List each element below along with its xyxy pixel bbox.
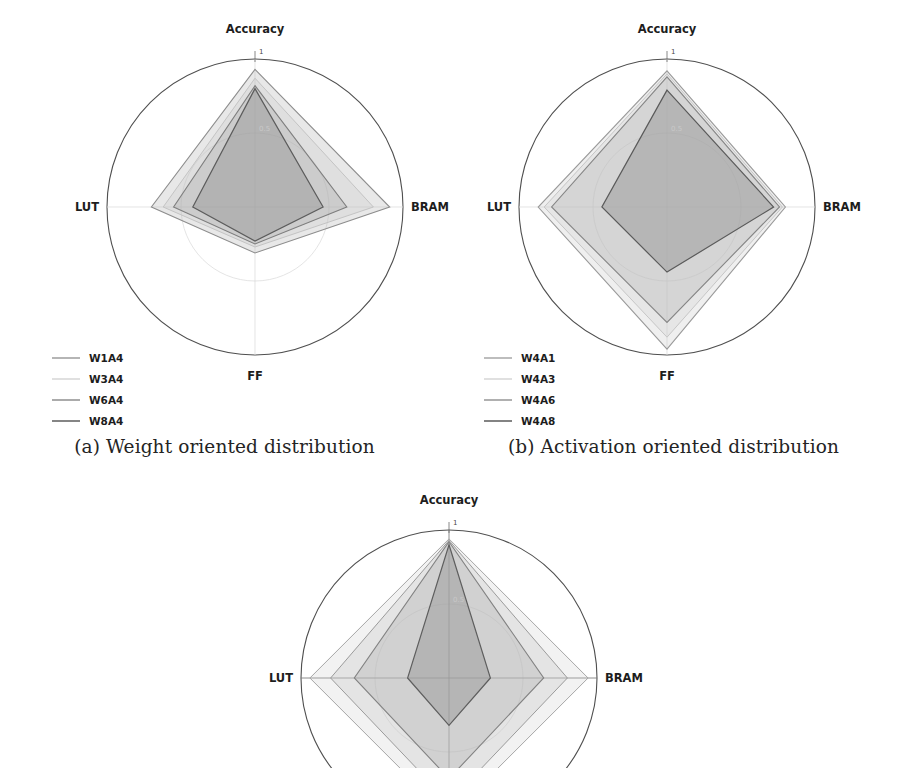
axis-label-accuracy: Accuracy — [638, 22, 697, 36]
legend-a: W1A4 W3A4 W6A4 W8A4 — [52, 352, 123, 427]
legend-label-4[interactable]: W4A8 — [521, 415, 555, 427]
axis-label-bram: BRAM — [411, 200, 449, 214]
axis-label-lut: LUT — [269, 671, 293, 685]
axis-label-bram: BRAM — [823, 200, 861, 214]
legend-label-3[interactable]: W6A4 — [89, 394, 123, 406]
radar-panel-a: Accuracy BRAM FF LUT 1 0.5 W1A4 W3A4 W6A… — [0, 0, 449, 430]
radial-tick-outer: 1 — [453, 519, 457, 527]
radar-chart-b: Accuracy BRAM FF LUT 1 0.5 W4A1 W4A3 W4A… — [449, 0, 898, 430]
radial-tick-mid: 0.5 — [259, 125, 270, 133]
axis-label-bram: BRAM — [605, 671, 643, 685]
radar-panel-b: Accuracy BRAM FF LUT 1 0.5 W4A1 W4A3 W4A… — [449, 0, 898, 430]
caption-b: (b) Activation oriented distribution — [449, 436, 898, 457]
caption-a: (a) Weight oriented distribution — [0, 436, 449, 457]
axis-label-ff: FF — [247, 369, 263, 383]
legend-label-4[interactable]: W8A4 — [89, 415, 123, 427]
axis-label-lut: LUT — [75, 200, 99, 214]
radar-panel-c: Accuracy BRAM LUT 1 0.5 — [225, 478, 674, 768]
axis-label-lut: LUT — [487, 200, 511, 214]
legend-label-3[interactable]: W4A6 — [521, 394, 555, 406]
radial-tick-outer: 1 — [259, 48, 263, 56]
legend-label-2[interactable]: W4A3 — [521, 373, 555, 385]
axis-label-ff: FF — [659, 369, 675, 383]
legend-label-1[interactable]: W4A1 — [521, 352, 555, 364]
legend-label-2[interactable]: W3A4 — [89, 373, 123, 385]
radar-chart-c: Accuracy BRAM LUT 1 0.5 — [225, 478, 674, 768]
radial-tick-outer: 1 — [671, 48, 675, 56]
legend-b: W4A1 W4A3 W4A6 W4A8 — [484, 352, 555, 427]
axis-label-accuracy: Accuracy — [226, 22, 285, 36]
radar-chart-a: Accuracy BRAM FF LUT 1 0.5 W1A4 W3A4 W6A… — [0, 0, 449, 430]
legend-label-1[interactable]: W1A4 — [89, 352, 123, 364]
radial-tick-mid: 0.5 — [453, 596, 464, 604]
radial-tick-mid: 0.5 — [671, 125, 682, 133]
axis-label-accuracy: Accuracy — [420, 493, 479, 507]
